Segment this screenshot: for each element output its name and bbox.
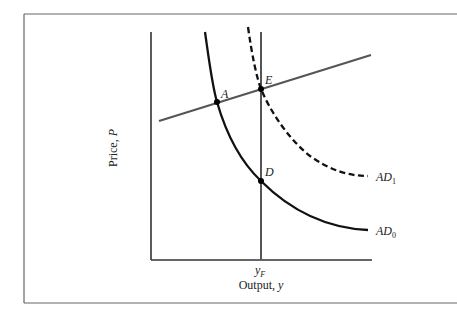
point-e-label: E xyxy=(264,73,273,87)
figure-canvas: A E D AD1 AD0 yF Output, y Price, P xyxy=(0,0,457,321)
ad1-label: AD1 xyxy=(375,170,396,186)
point-e-dot xyxy=(258,86,264,92)
point-a-label: A xyxy=(220,87,229,101)
ad0-label: AD0 xyxy=(375,224,396,240)
point-a-dot xyxy=(214,99,220,105)
point-d-dot xyxy=(258,178,264,184)
y-axis-label: Price, P xyxy=(106,128,120,167)
ad1-curve xyxy=(248,27,368,176)
x-tick-yf: yF xyxy=(254,263,265,279)
upward-supply-line xyxy=(159,55,371,121)
point-d-label: D xyxy=(264,165,274,179)
x-axis-label: Output, y xyxy=(239,278,284,292)
ad0-curve xyxy=(205,32,368,230)
